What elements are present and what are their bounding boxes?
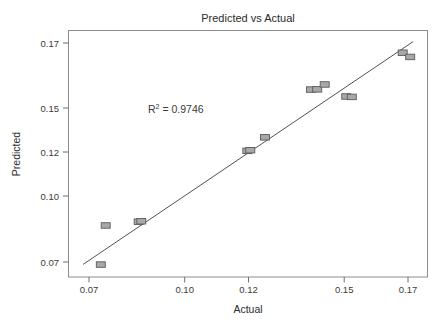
- data-point-marker: [101, 223, 110, 229]
- x-tick-label-2: 0.12: [239, 284, 258, 295]
- x-tick-label-3: 0.15: [335, 284, 354, 295]
- x-axis-title: Actual: [233, 303, 262, 315]
- data-point-marker: [347, 94, 356, 100]
- y-tick-label-0: 0.07: [41, 257, 60, 268]
- x-tick-label-4: 0.17: [399, 284, 418, 295]
- data-point-marker: [260, 135, 269, 141]
- chart-title: Predicted vs Actual: [201, 12, 295, 24]
- data-point-marker: [137, 219, 146, 225]
- figure-background: [0, 0, 448, 325]
- y-tick-label-3: 0.15: [41, 103, 60, 114]
- y-tick-label-2: 0.12: [41, 147, 60, 158]
- scatter-plot-canvas: Predicted vs Actual 0.17 0.15 0.12 0.10 …: [0, 0, 448, 325]
- chart-figure: Predicted vs Actual 0.17 0.15 0.12 0.10 …: [0, 0, 448, 325]
- y-tick-label-4: 0.17: [41, 38, 60, 49]
- r-squared-value: = 0.9746: [160, 103, 204, 115]
- x-tick-label-1: 0.10: [175, 284, 194, 295]
- data-point-marker: [246, 147, 255, 153]
- x-tick-label-0: 0.07: [80, 284, 99, 295]
- data-point-marker: [96, 262, 105, 268]
- data-point-marker: [406, 54, 415, 60]
- y-tick-label-1: 0.10: [41, 191, 60, 202]
- data-point-marker: [320, 82, 329, 88]
- y-axis-title: Predicted: [10, 132, 22, 177]
